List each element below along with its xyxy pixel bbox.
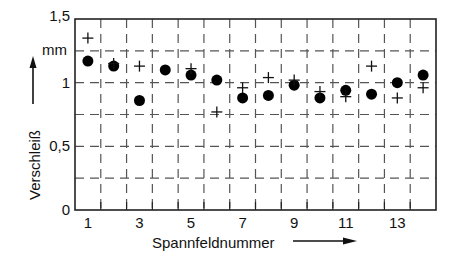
data-point-dot — [392, 77, 403, 88]
x-tick-label: 3 — [135, 214, 143, 231]
y-arrow-icon — [30, 56, 37, 104]
data-point-dot — [211, 75, 222, 86]
data-point-plus — [237, 82, 248, 93]
x-tick-label: 13 — [389, 214, 406, 231]
y-tick-label: 1,5 — [49, 7, 70, 24]
data-point-dot — [366, 89, 377, 100]
x-axis-title: Spannfeldnummer — [152, 234, 275, 251]
data-point-plus — [366, 61, 377, 72]
data-point-plus — [211, 106, 222, 117]
data-point-plus — [392, 92, 403, 103]
x-arrow-icon — [293, 238, 357, 245]
y-axis-ticks: 00,511,5 — [49, 7, 70, 218]
data-point-dot — [418, 70, 429, 81]
data-point-dot — [263, 90, 274, 101]
data-point-dot — [134, 95, 145, 106]
data-point-dot — [237, 92, 248, 103]
x-tick-label: 11 — [338, 214, 354, 231]
y-unit-label: mm — [42, 41, 67, 58]
y-tick-label: 0 — [62, 201, 70, 218]
y-tick-label: 1 — [62, 74, 70, 91]
data-point-plus — [418, 82, 429, 93]
x-axis-ticks: 135791113 — [84, 202, 410, 231]
y-tick-label: 0,5 — [49, 137, 70, 154]
data-points — [82, 33, 428, 118]
data-point-plus — [134, 61, 145, 72]
data-point-plus — [82, 33, 93, 44]
x-tick-label: 5 — [187, 214, 195, 231]
y-axis-title: Verschleiß — [26, 130, 43, 200]
data-point-dot — [82, 56, 93, 67]
grid-lines — [75, 19, 436, 210]
x-tick-label: 1 — [84, 214, 92, 231]
data-point-plus — [263, 72, 274, 83]
wear-chart: 135791113 00,511,5 mm Verschleiß Spannfe… — [0, 0, 458, 262]
x-tick-label: 9 — [290, 214, 298, 231]
x-tick-label: 7 — [238, 214, 246, 231]
data-point-dot — [160, 64, 171, 75]
